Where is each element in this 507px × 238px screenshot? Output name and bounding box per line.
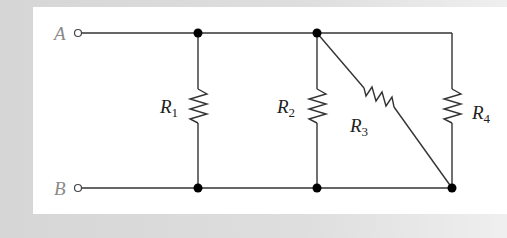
resistor-letter: R xyxy=(160,96,172,117)
junction-node-icon xyxy=(448,184,457,193)
terminal-a-label: A xyxy=(54,24,66,43)
resistor-r4-symbol xyxy=(444,33,461,188)
junction-node-icon xyxy=(194,29,203,38)
resistor-r3-label: R3 xyxy=(350,116,368,138)
terminal-a-icon[interactable] xyxy=(75,30,82,37)
resistor-subscript: 3 xyxy=(362,124,369,139)
resistor-letter: R xyxy=(350,115,362,136)
resistor-letter: R xyxy=(277,96,289,117)
terminal-b-label: B xyxy=(54,179,66,198)
resistor-subscript: 4 xyxy=(484,111,491,126)
resistor-r3-symbol xyxy=(317,33,452,188)
junction-node-icon xyxy=(313,184,322,193)
junction-node-icon xyxy=(313,29,322,38)
resistor-letter: R xyxy=(472,102,484,123)
resistor-r1-label: R1 xyxy=(160,97,178,119)
terminal-b-icon[interactable] xyxy=(75,185,82,192)
resistor-subscript: 1 xyxy=(172,105,179,120)
circuit-diagram xyxy=(0,0,507,238)
resistor-r4-label: R4 xyxy=(472,103,490,125)
resistor-r1-symbol xyxy=(190,33,207,188)
resistor-r2-label: R2 xyxy=(277,97,295,119)
junction-node-icon xyxy=(194,184,203,193)
resistor-r2-symbol xyxy=(309,33,326,188)
resistor-subscript: 2 xyxy=(289,105,296,120)
